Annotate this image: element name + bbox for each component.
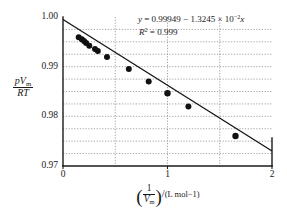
data-point bbox=[146, 78, 152, 84]
y-tick-label: 1.00 bbox=[28, 12, 58, 22]
molar-volume-subscript: m bbox=[26, 80, 31, 87]
molar-volume-subscript: m bbox=[149, 197, 154, 204]
fit-equation-annotation: y = 0.99949 − 1.3245 × 10−2x R2 = 0.999 bbox=[138, 13, 244, 39]
y-axis-label-fraction: pVm RT bbox=[13, 76, 33, 99]
unit-text: (L mol bbox=[165, 189, 188, 199]
fraction-denominator: Vm bbox=[143, 195, 156, 205]
x-tick-label: 0 bbox=[55, 170, 71, 180]
data-point bbox=[95, 48, 101, 54]
x-tick-label: 1 bbox=[160, 170, 176, 180]
reciprocal-molar-volume-fraction: 1 Vm bbox=[143, 184, 156, 205]
r-squared-line: R2 = 0.999 bbox=[138, 26, 244, 39]
equation-x-symbol: x bbox=[240, 14, 244, 24]
equation-line: y = 0.99949 − 1.3245 × 10−2x bbox=[138, 13, 244, 26]
data-point bbox=[185, 103, 191, 109]
unit-close-paren: ) bbox=[197, 189, 200, 199]
data-point bbox=[164, 90, 170, 96]
equation-body: = 0.99949 − 1.3245 × 10 bbox=[142, 14, 234, 24]
chart-figure: 1.00 0.99 0.98 0.97 0 1 2 pVm RT ( 1 Vm … bbox=[0, 0, 287, 217]
x-tick-label: 2 bbox=[264, 170, 280, 180]
data-point bbox=[232, 133, 238, 139]
y-tick-label: 0.97 bbox=[28, 161, 58, 171]
y-tick-label: 0.98 bbox=[28, 111, 58, 121]
data-point bbox=[126, 66, 132, 72]
data-point bbox=[86, 43, 92, 49]
x-axis-label: ( 1 Vm )/(L mol−1) bbox=[63, 184, 273, 206]
y-axis-label: pVm RT bbox=[2, 76, 44, 99]
r-squared-value: = 0.999 bbox=[148, 27, 178, 37]
y-tick-label: 0.99 bbox=[28, 62, 58, 72]
y-axis-label-denominator: RT bbox=[13, 88, 33, 99]
unit-exponent: −1 bbox=[188, 189, 197, 199]
data-point bbox=[104, 54, 110, 60]
